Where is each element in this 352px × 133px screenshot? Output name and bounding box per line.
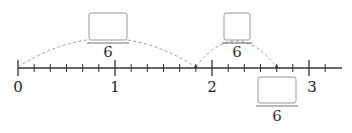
arc-endpoint-2 bbox=[275, 66, 278, 69]
answer-denominator: 6 bbox=[272, 107, 282, 125]
tick-label-3: 3 bbox=[307, 78, 317, 96]
tick-label-2: 2 bbox=[207, 78, 217, 96]
answer-numerator-input-box[interactable] bbox=[258, 77, 296, 103]
jump-2-fraction: 6 bbox=[222, 13, 252, 61]
denominator-1: 6 bbox=[103, 43, 113, 61]
number-line-diagram: 0 1 2 3 6 6 6 bbox=[0, 0, 352, 133]
numerator-input-box-2[interactable] bbox=[224, 13, 250, 40]
tick-label-1: 1 bbox=[110, 78, 120, 96]
arc-endpoint-1 bbox=[194, 66, 197, 69]
jump-1-fraction: 6 bbox=[87, 13, 129, 61]
denominator-2: 6 bbox=[232, 43, 242, 61]
answer-fraction: 6 bbox=[256, 77, 298, 125]
tick-label-0: 0 bbox=[13, 78, 23, 96]
numerator-input-box-1[interactable] bbox=[89, 13, 127, 40]
